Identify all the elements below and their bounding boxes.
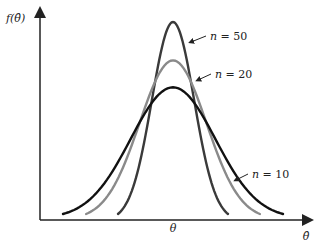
- series-label-n-10: n = 10: [252, 168, 289, 181]
- x-axis-label: θ̂: [303, 230, 310, 243]
- center-theta-label: θ: [170, 222, 177, 235]
- curve-n-50: [118, 22, 228, 214]
- series-label-n-20: n = 20: [215, 68, 252, 81]
- series-label-n-50: n = 50: [210, 30, 247, 43]
- curve-n-10: [63, 87, 283, 214]
- chart-svg: f(θ̂) θ̂ θ n = 50n = 20n = 10: [0, 0, 319, 249]
- y-axis-label: f(θ̂): [5, 12, 25, 25]
- annotation-arrow-n-50: [191, 36, 206, 42]
- annotation-arrow-n-20: [198, 74, 211, 80]
- curve-n-20: [86, 60, 260, 214]
